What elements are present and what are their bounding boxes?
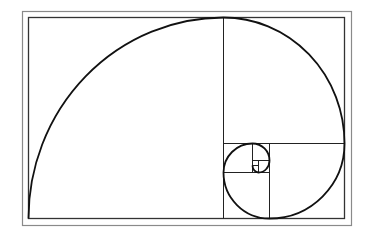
square-grid [224, 18, 345, 219]
outer-frame [23, 12, 352, 226]
inner-rectangle [29, 18, 345, 219]
golden-spiral-diagram [0, 0, 370, 235]
golden-spiral-curve [29, 18, 345, 219]
